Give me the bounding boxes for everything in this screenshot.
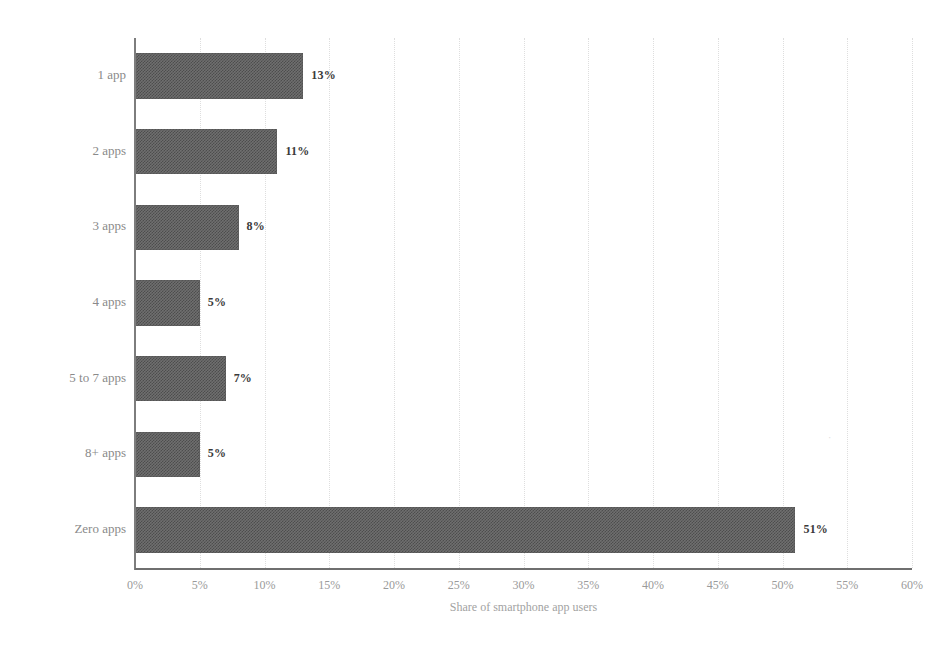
gridline — [329, 38, 330, 568]
x-axis-tick-label: 35% — [577, 578, 599, 593]
gridline — [265, 38, 266, 568]
bar-value-label: 5% — [208, 446, 226, 461]
x-axis-tick-label: 45% — [707, 578, 729, 593]
bar — [135, 129, 277, 174]
x-axis-tick-label: 15% — [318, 578, 340, 593]
y-axis-category-label: Zero apps — [6, 521, 126, 537]
x-axis-tick-label: 40% — [642, 578, 664, 593]
bar-value-label: 11% — [285, 144, 309, 159]
gridline — [394, 38, 395, 568]
bar — [135, 432, 200, 477]
gridline — [524, 38, 525, 568]
bar — [135, 356, 226, 401]
x-axis-line — [135, 568, 912, 570]
bar — [135, 507, 795, 552]
x-axis-tick-label: 55% — [836, 578, 858, 593]
gridline — [847, 38, 848, 568]
bar-chart: 13%11%8%5%7%5%51% 1 app2 apps3 apps4 app… — [0, 0, 950, 669]
y-axis-category-labels: 1 app2 apps3 apps4 apps5 to 7 apps8+ app… — [0, 38, 126, 568]
gridline — [588, 38, 589, 568]
y-axis-category-label: 1 app — [6, 67, 126, 83]
gridline — [200, 38, 201, 568]
y-axis-category-label: 4 apps — [6, 294, 126, 310]
x-axis-tick-label: 20% — [383, 578, 405, 593]
bar-value-label: 51% — [803, 522, 828, 537]
gridline — [653, 38, 654, 568]
x-axis-tick-label: 30% — [513, 578, 535, 593]
bar — [135, 280, 200, 325]
bar-value-label: 8% — [247, 219, 265, 234]
gridline — [783, 38, 784, 568]
x-axis-tick-label: 0% — [127, 578, 143, 593]
x-axis-title: Share of smartphone app users — [135, 600, 912, 615]
x-axis-tick-label: 50% — [772, 578, 794, 593]
plot-area: 13%11%8%5%7%5%51% — [135, 38, 912, 568]
x-axis-tick-label: 5% — [192, 578, 208, 593]
gridline — [912, 38, 913, 568]
x-axis-tick-label: 60% — [901, 578, 923, 593]
y-axis-category-label: 8+ apps — [6, 445, 126, 461]
bar-value-label: 5% — [208, 295, 226, 310]
x-axis-tick-label: 10% — [254, 578, 276, 593]
bar-value-label: 7% — [234, 371, 252, 386]
gridline — [718, 38, 719, 568]
y-axis-category-label: 2 apps — [6, 143, 126, 159]
x-axis-tick-label: 25% — [448, 578, 470, 593]
bar-value-label: 13% — [311, 68, 336, 83]
paper-speck: · — [828, 432, 831, 443]
y-axis-line — [134, 38, 136, 570]
bar — [135, 53, 303, 98]
y-axis-category-label: 3 apps — [6, 218, 126, 234]
bar — [135, 205, 239, 250]
y-axis-category-label: 5 to 7 apps — [6, 370, 126, 386]
gridline — [459, 38, 460, 568]
